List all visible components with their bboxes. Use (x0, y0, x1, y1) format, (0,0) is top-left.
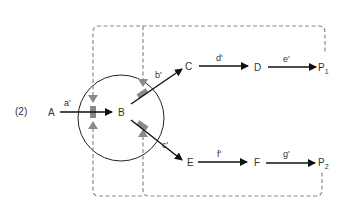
metabolic-pathway-diagram: (2) A B C D E F P1 P2 a' b' c' d' e' f' … (0, 0, 342, 211)
node-f: F (254, 157, 260, 168)
edge-label-f: f' (217, 149, 222, 159)
inhibit-arrow-up-a (88, 121, 98, 129)
arrow-b-to-e (131, 120, 182, 160)
node-p1: P1 (318, 62, 329, 75)
node-p2: P2 (318, 157, 329, 170)
edge-label-c: c' (162, 140, 169, 150)
edge-label-g: g' (283, 149, 290, 159)
node-a: A (48, 107, 55, 118)
node-c: C (185, 61, 192, 72)
edge-label-e: e' (283, 54, 290, 64)
feedback-loop-p1 (93, 26, 325, 96)
node-e: E (187, 157, 194, 168)
edge-label-a: a' (64, 98, 71, 108)
edge-label-b: b' (155, 70, 162, 80)
edge-label-d: d' (216, 53, 223, 63)
figure-label: (2) (15, 106, 27, 117)
node-b: B (118, 107, 125, 118)
node-d: D (254, 62, 261, 73)
inhibit-arrow-down-a (88, 95, 98, 103)
